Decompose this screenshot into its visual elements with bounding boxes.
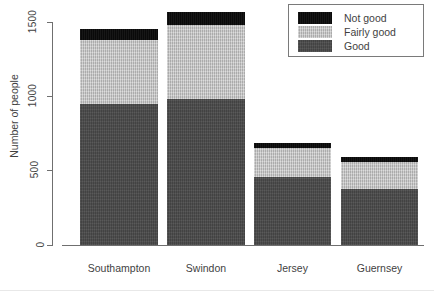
legend-item-fairly-good[interactable]: Fairly good [298,25,396,38]
segment-fairly-good[interactable] [167,25,245,99]
legend-swatch-good-icon [298,40,332,52]
x-label-guernsey: Guernsey [341,262,418,274]
y-tick-mark-0 [47,245,52,246]
legend-label-not-good: Not good [344,12,387,24]
legend-label-good: Good [344,40,370,52]
legend-item-good[interactable]: Good [298,39,370,52]
x-axis-line [62,245,424,246]
legend: Not good Fairly good Good [288,4,424,57]
segment-fairly-good[interactable] [254,148,331,177]
segment-good[interactable] [254,177,331,245]
x-label-jersey: Jersey [254,262,331,274]
x-label-swindon: Swindon [167,262,245,274]
segment-fairly-good[interactable] [80,40,158,104]
segment-good[interactable] [341,189,418,245]
legend-swatch-not-good-icon [298,12,332,24]
segment-good[interactable] [80,104,158,245]
x-label-southampton: Southampton [80,262,158,274]
segment-not-good[interactable] [80,29,158,39]
segment-fairly-good[interactable] [341,162,418,190]
segment-good[interactable] [167,99,245,245]
bottom-divider [0,290,434,291]
bar-southampton[interactable] [80,0,158,245]
legend-item-not-good[interactable]: Not good [298,11,387,24]
bar-swindon[interactable] [167,0,245,245]
legend-swatch-fairly-good-icon [298,26,332,38]
stacked-bar-chart: Number of people 1500 1000 500 0 [0,0,434,297]
legend-label-fairly-good: Fairly good [344,26,396,38]
segment-not-good[interactable] [167,12,245,25]
